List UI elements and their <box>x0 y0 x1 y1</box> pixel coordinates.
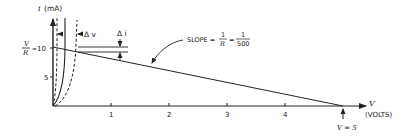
diode-curve-nominal <box>53 18 65 106</box>
slope-equals: = <box>229 36 234 44</box>
diode-load-line-diagram: i (mA) 5 10 V R = 1 2 3 4 V (VOLTS) V = … <box>0 0 414 137</box>
y-axis <box>50 19 53 106</box>
y-axis-symbol: i <box>38 4 41 13</box>
y-intercept-label: V R = <box>22 40 37 57</box>
x-tick-3: 3 <box>225 111 229 119</box>
x-tick-2: 2 <box>167 111 171 119</box>
slope-frac1-den: R <box>219 40 225 48</box>
y-axis-unit: (mA) <box>44 4 62 13</box>
slope-frac2-num: 1 <box>241 31 245 39</box>
slope-frac1-num: 1 <box>221 31 225 39</box>
y-tick-10: 10 <box>37 45 46 53</box>
slope-pointer-arrow <box>152 40 183 63</box>
x-intercept-label: V = 5 <box>337 124 357 132</box>
x-tick-4: 4 <box>283 111 288 119</box>
slope-annotation: SLOPE = 1 R = 1 500 <box>152 31 250 63</box>
equals-sign: = <box>32 45 37 52</box>
x-axis-symbol: V <box>369 99 376 108</box>
delta-i-label: Δ i <box>117 29 127 38</box>
load-line <box>53 47 343 106</box>
slope-frac2-den: 500 <box>237 40 249 48</box>
diode-curve-right <box>55 20 77 106</box>
slope-prefix: SLOPE = <box>187 36 215 44</box>
v-over-r-denominator: R <box>22 49 29 57</box>
v-over-r-numerator: V <box>24 40 30 48</box>
x-tick-1: 1 <box>109 111 113 119</box>
y-tick-5: 5 <box>44 74 48 82</box>
delta-v-marker: Δ v <box>58 30 97 39</box>
x-axis <box>53 103 366 106</box>
x-axis-unit: (VOLTS) <box>365 111 393 119</box>
delta-v-label: Δ v <box>84 30 97 39</box>
